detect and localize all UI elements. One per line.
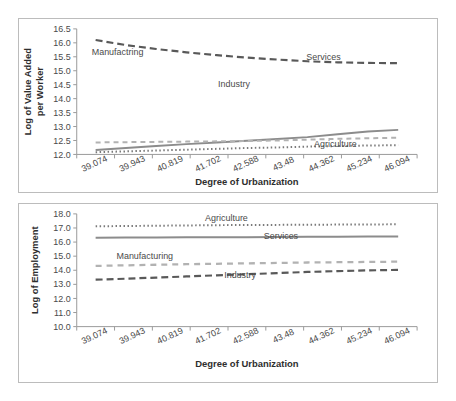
series-label-agriculture: Agriculture [205, 213, 248, 223]
x-tick-label-group: 41.702 [193, 326, 222, 347]
figure-container: 12.012.513.013.514.014.515.015.516.016.5… [0, 0, 456, 401]
x-tick-label-group: 40.819 [155, 326, 184, 347]
x-tick-label: 39.074 [80, 326, 109, 347]
series-label-agriculture: Agriculture [314, 139, 357, 149]
x-axis-title: Degree of Urbanization [195, 176, 299, 187]
x-tick-label-group: 44.362 [307, 153, 336, 174]
x-tick-label: 44.362 [307, 153, 336, 174]
y-tick-label: 13.0 [53, 122, 70, 132]
y-axis-title-line2: per Worker [34, 67, 45, 117]
x-tick-label: 44.362 [307, 326, 336, 347]
y-tick-label: 12.5 [53, 136, 70, 146]
chart-panel-value-added: 12.012.513.013.514.014.515.015.516.016.5… [18, 18, 438, 193]
x-tick-label-group: 42.588 [231, 326, 260, 347]
series-line-agriculture [96, 224, 399, 226]
y-tick-label: 18.0 [53, 209, 70, 219]
x-tick-label-group: 42.588 [231, 153, 260, 174]
y-tick-label: 11.0 [54, 308, 71, 318]
y-tick-label: 15.5 [53, 52, 70, 62]
x-tick-label: 41.702 [193, 153, 222, 174]
x-tick-label-group: 43.48 [271, 327, 296, 345]
series-label-industry: Industry [224, 270, 256, 280]
series-label-manufacturing: Manufacturing [116, 251, 173, 261]
y-axis-title-group: Log of Value Addedper Worker [22, 48, 45, 135]
y-tick-label: 16.0 [53, 38, 70, 48]
y-tick-label: 14.0 [53, 94, 70, 104]
x-tick-label: 45.234 [345, 153, 374, 174]
x-tick-label: 40.819 [155, 153, 184, 174]
x-tick-label: 40.819 [155, 326, 184, 347]
x-tick-label: 45.234 [345, 326, 374, 347]
x-tick-label: 41.702 [193, 326, 222, 347]
x-tick-label: 39.943 [118, 153, 147, 174]
x-tick-label-group: 39.074 [80, 153, 109, 174]
x-tick-label: 39.943 [118, 326, 147, 347]
x-tick-label-group: 43.48 [271, 154, 296, 172]
y-tick-label: 16.5 [53, 24, 70, 34]
x-tick-label: 42.588 [231, 153, 260, 174]
chart-panel-employment: 10.011.012.013.014.015.016.017.018.039.0… [18, 203, 438, 383]
y-tick-label: 12.0 [53, 150, 70, 160]
x-tick-label-group: 39.943 [118, 326, 147, 347]
y-axis-title-line1: Log of Value Added [22, 48, 33, 135]
y-tick-label: 17.0 [53, 223, 70, 233]
x-tick-label: 39.074 [80, 153, 109, 174]
y-axis-title: Log of Employment [29, 226, 40, 314]
y-tick-label: 15.0 [53, 251, 70, 261]
x-tick-label-group: 45.234 [345, 153, 374, 174]
x-tick-label-group: 39.074 [80, 326, 109, 347]
series-line-services [96, 236, 399, 237]
x-tick-label: 46.094 [382, 326, 411, 347]
x-tick-label: 43.48 [271, 154, 296, 172]
employment-chart-svg: 10.011.012.013.014.015.016.017.018.039.0… [19, 204, 437, 382]
series-label-services: Services [264, 231, 299, 241]
y-tick-label: 14.5 [53, 80, 70, 90]
y-tick-label: 16.0 [53, 237, 70, 247]
x-tick-label-group: 46.094 [382, 326, 411, 347]
x-tick-label: 46.094 [382, 153, 411, 174]
series-label-manufactring: Manufactring [92, 47, 144, 57]
x-tick-label-group: 40.819 [155, 153, 184, 174]
x-tick-label: 42.588 [231, 326, 260, 347]
value-added-chart-svg: 12.012.513.013.514.014.515.015.516.016.5… [19, 19, 437, 192]
series-label-services: Services [306, 52, 341, 62]
series-label-industry: Industry [218, 79, 250, 89]
y-tick-label: 13.0 [53, 280, 70, 290]
x-tick-label-group: 46.094 [382, 153, 411, 174]
x-tick-label: 43.48 [271, 327, 296, 345]
x-tick-label-group: 41.702 [193, 153, 222, 174]
x-axis-title: Degree of Urbanization [195, 358, 299, 369]
y-tick-label: 10.0 [53, 322, 70, 332]
y-tick-label: 14.0 [53, 265, 70, 275]
y-tick-label: 15.0 [53, 66, 70, 76]
series-line-manufacturing [96, 262, 399, 266]
y-tick-label: 12.0 [53, 294, 70, 304]
x-tick-label-group: 45.234 [345, 326, 374, 347]
y-axis-title-group: Log of Employment [29, 226, 40, 314]
y-tick-label: 13.5 [53, 108, 70, 118]
x-tick-label-group: 39.943 [118, 153, 147, 174]
x-tick-label-group: 44.362 [307, 326, 336, 347]
